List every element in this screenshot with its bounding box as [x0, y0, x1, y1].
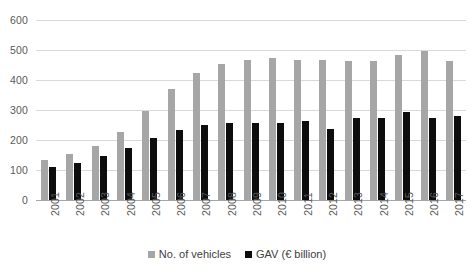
bar-gav-2005[interactable] [150, 138, 157, 200]
x-axis: 2001200220032004200520062007200820092010… [36, 202, 466, 244]
x-tick-cell-2014: 2014 [365, 202, 390, 244]
bar-group-2002 [61, 20, 86, 200]
x-tick-label-2002: 2002 [74, 192, 86, 216]
x-tick-cell-2010: 2010 [264, 202, 289, 244]
x-tick-label-2004: 2004 [125, 192, 137, 216]
x-tick-label-2009: 2009 [251, 192, 263, 216]
bar-vehicles-2011[interactable] [294, 60, 301, 200]
x-tick-cell-2001: 2001 [36, 202, 61, 244]
bar-group-2010 [264, 20, 289, 200]
bar-group-2013 [340, 20, 365, 200]
y-tick-label-300: 300 [10, 104, 28, 116]
bar-gav-2015[interactable] [403, 112, 410, 200]
x-tick-label-2015: 2015 [403, 192, 415, 216]
bar-vehicles-2014[interactable] [370, 61, 377, 200]
x-tick-label-2017: 2017 [453, 192, 465, 216]
legend-entry-vehicles[interactable]: No. of vehicles [148, 248, 231, 260]
bar-group-2017 [441, 20, 466, 200]
x-tick-cell-2009: 2009 [238, 202, 263, 244]
bar-gav-2011[interactable] [302, 121, 309, 200]
bar-gav-2009[interactable] [252, 123, 259, 200]
x-tick-label-2008: 2008 [226, 192, 238, 216]
x-tick-label-2005: 2005 [150, 192, 162, 216]
legend-entry-gav[interactable]: GAV (€ billion) [245, 248, 326, 260]
bar-vehicles-2015[interactable] [395, 55, 402, 200]
chart-legend: No. of vehiclesGAV (€ billion) [0, 248, 474, 260]
x-tick-cell-2012: 2012 [314, 202, 339, 244]
bar-group-2014 [365, 20, 390, 200]
bar-gav-2006[interactable] [176, 130, 183, 201]
x-tick-cell-2006: 2006 [162, 202, 187, 244]
bar-group-2011 [289, 20, 314, 200]
y-tick-label-200: 200 [10, 134, 28, 146]
y-tick-label-500: 500 [10, 44, 28, 56]
x-tick-label-2001: 2001 [49, 192, 61, 216]
bar-group-2008 [213, 20, 238, 200]
y-tick-label-0: 0 [22, 194, 28, 206]
bar-gav-2010[interactable] [277, 123, 284, 200]
bar-group-2005 [137, 20, 162, 200]
bar-vehicles-2007[interactable] [193, 73, 200, 200]
x-tick-cell-2016: 2016 [415, 202, 440, 244]
bar-group-2004 [112, 20, 137, 200]
bar-group-2006 [162, 20, 187, 200]
x-tick-cell-2015: 2015 [390, 202, 415, 244]
bar-chart: 0100200300400500600 20012002200320042005… [0, 0, 474, 271]
bar-gav-2013[interactable] [353, 118, 360, 201]
bar-group-2009 [238, 20, 263, 200]
bar-vehicles-2006[interactable] [168, 89, 175, 200]
bar-gav-2012[interactable] [327, 129, 334, 200]
legend-label: GAV (€ billion) [256, 248, 326, 260]
bar-group-2007 [188, 20, 213, 200]
black-square-icon [245, 251, 252, 258]
x-tick-label-2006: 2006 [175, 192, 187, 216]
bar-vehicles-2004[interactable] [117, 132, 124, 200]
bar-vehicles-2008[interactable] [218, 64, 225, 201]
bar-group-2016 [415, 20, 440, 200]
x-tick-label-2007: 2007 [200, 192, 212, 216]
bar-vehicles-2017[interactable] [446, 61, 453, 200]
x-tick-label-2012: 2012 [327, 192, 339, 216]
legend-label: No. of vehicles [159, 248, 231, 260]
x-tick-cell-2013: 2013 [340, 202, 365, 244]
x-tick-label-2016: 2016 [428, 192, 440, 216]
bar-gav-2014[interactable] [378, 118, 385, 200]
bar-gav-2017[interactable] [454, 116, 461, 200]
gray-square-icon [148, 251, 155, 258]
x-tick-label-2003: 2003 [99, 192, 111, 216]
x-tick-cell-2011: 2011 [289, 202, 314, 244]
x-tick-cell-2017: 2017 [441, 202, 466, 244]
bar-group-2001 [36, 20, 61, 200]
bar-vehicles-2002[interactable] [66, 154, 73, 200]
y-tick-label-100: 100 [10, 164, 28, 176]
y-tick-label-600: 600 [10, 14, 28, 26]
bar-group-2015 [390, 20, 415, 200]
bar-gav-2016[interactable] [429, 118, 436, 200]
bar-group-2012 [314, 20, 339, 200]
x-tick-label-2010: 2010 [276, 192, 288, 216]
x-tick-cell-2007: 2007 [188, 202, 213, 244]
bar-gav-2007[interactable] [201, 125, 208, 200]
bar-vehicles-2012[interactable] [319, 60, 326, 200]
bar-vehicles-2005[interactable] [142, 111, 149, 200]
x-tick-cell-2003: 2003 [87, 202, 112, 244]
bar-gav-2008[interactable] [226, 123, 233, 200]
bar-vehicles-2016[interactable] [421, 51, 428, 200]
x-tick-label-2014: 2014 [378, 192, 390, 216]
bar-vehicles-2003[interactable] [92, 146, 99, 200]
bar-vehicles-2013[interactable] [345, 61, 352, 200]
x-tick-label-2011: 2011 [302, 192, 314, 215]
plot-area [36, 20, 466, 200]
x-tick-label-2013: 2013 [352, 192, 364, 216]
bar-group-2003 [87, 20, 112, 200]
bar-vehicles-2009[interactable] [244, 60, 251, 200]
bar-vehicles-2010[interactable] [269, 58, 276, 200]
y-axis: 0100200300400500600 [0, 20, 32, 200]
x-tick-cell-2004: 2004 [112, 202, 137, 244]
bar-vehicles-2001[interactable] [41, 160, 48, 201]
y-tick-label-400: 400 [10, 74, 28, 86]
x-tick-cell-2005: 2005 [137, 202, 162, 244]
x-tick-cell-2008: 2008 [213, 202, 238, 244]
bars-layer [36, 20, 466, 200]
x-tick-cell-2002: 2002 [61, 202, 86, 244]
